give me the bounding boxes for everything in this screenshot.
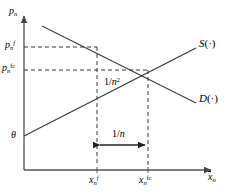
- x-axis-label-sub: n: [212, 176, 215, 183]
- y-tick-label-price-flexible: pnf: [5, 40, 15, 52]
- y-axis-label: pn: [9, 6, 17, 17]
- x-axis-label-overbar-group: x: [208, 172, 212, 182]
- y-tick-label-theta: θ: [11, 130, 16, 140]
- annot-sup: 2: [117, 76, 120, 83]
- supply-curve-line: [24, 48, 196, 136]
- y-tick-sup: fc: [10, 62, 15, 69]
- x-tick-sup: f: [97, 174, 99, 181]
- x-tick-label-quantity-flexible-constrained: xnfc: [139, 175, 152, 187]
- demand-curve-label-base: D: [199, 92, 207, 104]
- annotation-one-over-n: 1/n: [112, 129, 125, 139]
- y-tick-base: θ: [11, 129, 16, 140]
- supply-demand-figure: pn xn pnf pnfc θ xnf xnfc S(·) D(·) 1/n2…: [0, 0, 238, 196]
- x-axis-label-base: x: [208, 171, 212, 182]
- x-axis-label: xn: [208, 172, 216, 183]
- x-tick-label-quantity-flexible: xnf: [89, 175, 98, 187]
- y-tick-sup: f: [13, 39, 15, 46]
- overbar-decoration: [208, 171, 211, 172]
- y-axis-label-sub: n: [14, 10, 17, 17]
- demand-curve-label: D(·): [199, 93, 218, 104]
- annotation-one-over-n-squared: 1/n2: [104, 77, 120, 87]
- demand-curve-label-args: (·): [207, 92, 218, 104]
- annot-base: 1/: [104, 76, 112, 87]
- annot-base: 1/: [112, 128, 120, 139]
- demand-curve-line: [42, 26, 196, 103]
- y-tick-label-price-flexible-constrained: pnfc: [2, 63, 15, 75]
- annot-sub: n: [120, 128, 125, 139]
- supply-curve-label: S(·): [199, 38, 216, 49]
- x-tick-sup: fc: [147, 174, 152, 181]
- supply-curve-label-args: (·): [205, 37, 216, 49]
